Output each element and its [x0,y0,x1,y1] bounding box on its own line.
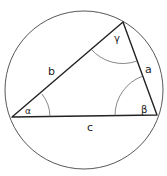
circumcircle [5,11,163,169]
side-label-a: a [145,63,152,76]
triangle [12,22,157,117]
angle-label-alpha: α [25,106,31,116]
angle-arc-alpha [42,94,50,117]
angle-arc-gamma [91,49,137,63]
triangle-circle-diagram: a b c α β γ [0,0,167,176]
side-label-b: b [48,65,55,78]
angle-label-gamma: γ [114,33,120,44]
angle-label-beta: β [141,104,147,115]
side-label-c: c [87,121,93,134]
angle-arc-beta [115,76,143,116]
